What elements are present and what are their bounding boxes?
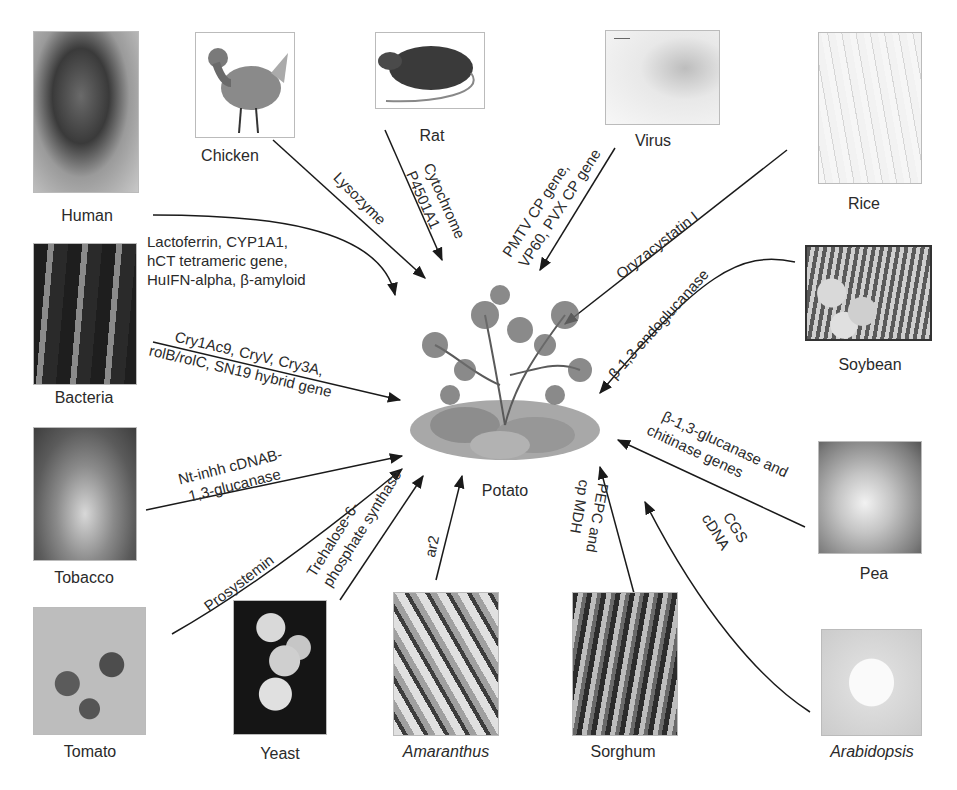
yeast-micrograph-icon [233,600,327,735]
organism-label-rat: Rat [420,127,445,145]
rat-illustration-icon [375,32,485,109]
potato-plant-icon [405,275,605,465]
organism-label-tobacco: Tobacco [54,569,114,587]
pea-plant-photo-icon [818,441,922,554]
potato-label: Potato [482,482,528,500]
gene-label-human: Lactoferrin, CYP1A1, hCT tetrameric gene… [147,232,306,289]
human-sculpture-photo-icon [33,31,139,193]
sorghum-photo-icon [572,592,678,736]
organism-label-human: Human [61,207,113,225]
organism-label-pea: Pea [860,565,888,583]
amaranthus-photo-icon [393,592,499,736]
organism-label-sorghum: Sorghum [591,743,656,761]
arrow-amaranthus [436,476,462,580]
organism-label-amaranthus: Amaranthus [403,743,489,761]
organism-label-arabidopsis: Arabidopsis [830,743,914,761]
organism-label-bacteria: Bacteria [55,389,114,407]
arabidopsis-photo-icon [821,629,922,736]
organism-label-chicken: Chicken [201,147,259,165]
rice-botanical-drawing-icon [818,32,922,184]
tomato-photo-icon [33,607,146,735]
bacteria-micrograph-icon [33,243,137,385]
potato-node [405,275,605,465]
organism-label-virus: Virus [635,132,671,150]
chicken-illustration-icon [195,32,295,138]
soybean-photo-icon [805,245,932,341]
virus-micrograph-icon [605,30,720,125]
organism-label-tomato: Tomato [64,743,116,761]
organism-label-yeast: Yeast [260,745,299,763]
tobacco-plant-photo-icon [33,427,137,561]
organism-label-soybean: Soybean [838,356,901,374]
organism-label-rice: Rice [848,195,880,213]
